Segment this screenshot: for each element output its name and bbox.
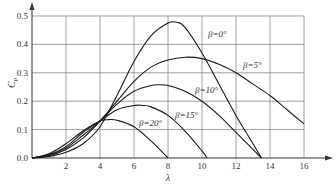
label-beta-15: β=15° — [174, 110, 199, 120]
x-tick-label: 14 — [266, 161, 276, 171]
x-axis-label: λ — [165, 172, 171, 183]
y-tick-label: 0.5 — [17, 11, 29, 21]
x-tick-labels: 246810121416 — [64, 161, 309, 171]
label-beta-10: β=10° — [194, 85, 219, 95]
y-tick-labels: 0.00.10.20.30.40.5 — [17, 11, 29, 163]
x-tick-label: 8 — [166, 161, 171, 171]
label-beta-0: β=0° — [207, 29, 227, 39]
x-axis-arrow-icon — [325, 156, 333, 161]
y-tick-label: 0.2 — [17, 96, 28, 106]
y-tick-label: 0.4 — [17, 39, 29, 49]
x-tick-label: 2 — [64, 161, 69, 171]
grid — [32, 16, 304, 158]
x-tick-label: 12 — [232, 161, 241, 171]
y-axis-arrow-icon — [30, 2, 35, 10]
y-tick-label: 0.3 — [17, 68, 29, 78]
cp-lambda-chart: 0.00.10.20.30.40.5 246810121416 Cp λ β=0… — [0, 0, 336, 187]
y-axis-label: Cp — [6, 77, 19, 88]
label-beta-20: β=20° — [138, 118, 163, 128]
x-tick-label: 4 — [98, 161, 103, 171]
y-tick-label: 0.1 — [17, 125, 28, 135]
x-tick-label: 6 — [132, 161, 137, 171]
x-tick-label: 16 — [300, 161, 310, 171]
x-tick-label: 10 — [198, 161, 208, 171]
y-tick-label: 0.0 — [17, 153, 29, 163]
label-beta-5: β=5° — [242, 60, 262, 70]
